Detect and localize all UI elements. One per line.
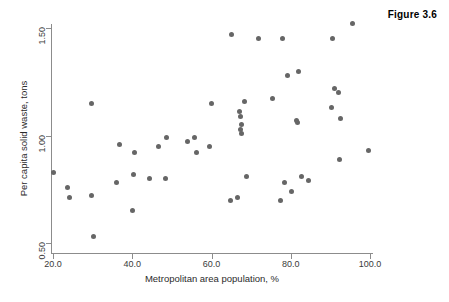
x-axis-tick-label: 60.0 <box>192 259 232 269</box>
x-axis-tick-label: 40.0 <box>112 259 152 269</box>
y-axis-line <box>51 24 52 254</box>
data-point <box>89 193 94 198</box>
data-point <box>242 99 247 104</box>
data-point <box>228 198 233 203</box>
data-point <box>338 116 343 121</box>
data-point <box>280 36 285 41</box>
data-point <box>192 135 197 140</box>
y-axis-title: Per capita solid waste, tons <box>18 54 29 224</box>
data-point <box>132 150 137 155</box>
data-point <box>51 170 56 175</box>
data-point <box>244 174 249 179</box>
data-point <box>336 90 341 95</box>
data-point <box>209 101 214 106</box>
y-axis-tick-label: 1.50 <box>37 27 47 67</box>
data-point <box>164 135 169 140</box>
data-point <box>185 139 190 144</box>
data-point <box>282 180 287 185</box>
x-axis-title: Metropolitan area population, % <box>51 273 373 284</box>
figure-container: Figure 3.6 0.501.001.50 20.040.060.080.0… <box>0 0 449 302</box>
x-axis-tick-label: 100.0 <box>350 259 390 269</box>
data-point <box>156 144 161 149</box>
data-point <box>299 174 304 179</box>
data-point <box>330 36 335 41</box>
data-point <box>289 189 294 194</box>
data-point <box>295 120 300 125</box>
data-point <box>65 185 70 190</box>
data-point <box>238 114 243 119</box>
data-point <box>235 195 240 200</box>
data-point <box>91 234 96 239</box>
data-point <box>296 69 301 74</box>
data-point <box>366 148 371 153</box>
data-point <box>239 122 244 127</box>
data-point <box>130 208 135 213</box>
data-point <box>256 36 261 41</box>
data-point <box>285 73 290 78</box>
data-point <box>278 198 283 203</box>
y-axis-tick-label: 1.00 <box>37 135 47 175</box>
data-point <box>239 131 244 136</box>
data-point <box>131 172 136 177</box>
data-point <box>117 142 122 147</box>
data-point <box>229 32 234 37</box>
x-axis-tick-label: 80.0 <box>271 259 311 269</box>
data-point <box>194 150 199 155</box>
data-point <box>114 180 119 185</box>
x-axis-tick-label: 20.0 <box>33 259 73 269</box>
data-point <box>147 176 152 181</box>
data-point <box>67 195 72 200</box>
data-point <box>207 144 212 149</box>
data-point <box>270 96 275 101</box>
data-point <box>337 157 342 162</box>
data-point <box>350 21 355 26</box>
data-point <box>89 101 94 106</box>
data-point <box>329 105 334 110</box>
scatter-plot-area: 0.501.001.50 20.040.060.080.0100.0 Per c… <box>0 0 449 302</box>
data-point <box>163 176 168 181</box>
data-point <box>306 178 311 183</box>
